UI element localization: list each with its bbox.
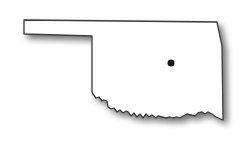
map-container: Oklahoma (0, 0, 252, 144)
location-marker-icon (168, 60, 175, 67)
oklahoma-map (0, 0, 252, 144)
state-outline (24, 20, 223, 120)
